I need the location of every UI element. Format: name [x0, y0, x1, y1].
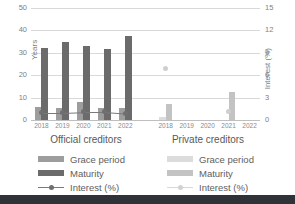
- category-tick-label: 2021: [221, 122, 235, 129]
- legend-item: Grace period: [167, 152, 254, 166]
- chart-figure: 0102030405003691215YearsInterest (%) 201…: [0, 0, 295, 204]
- legend-label: Interest (%): [199, 182, 248, 193]
- legend-item: Interest (%): [167, 180, 254, 194]
- y-axis-tick-label: 20: [19, 71, 27, 79]
- category-tick-label: 2022: [242, 122, 256, 129]
- category-tick-label: 2018: [158, 122, 172, 129]
- category-tick-label: 2018: [34, 122, 48, 129]
- y-axis-tick-label: 40: [19, 26, 27, 34]
- legend-item: Interest (%): [38, 180, 125, 194]
- y2-axis-tick-label: 3: [265, 94, 269, 102]
- plot-area: 0102030405003691215YearsInterest (%): [31, 8, 260, 120]
- y2-axis-tick-label: 0: [265, 116, 269, 124]
- swatch-grace-official-icon: [38, 156, 64, 162]
- interest-marker: [39, 110, 44, 115]
- panel-title-official: Official creditors: [50, 134, 122, 145]
- y-axis-tick-label: 0: [23, 116, 27, 124]
- swatch-maturity-official-icon: [38, 170, 64, 176]
- legend-item: Maturity: [38, 166, 125, 180]
- interest-marker: [60, 110, 65, 115]
- bar-maturity: [41, 48, 47, 120]
- bar-maturity: [125, 36, 131, 120]
- category-tick-label: 2022: [118, 122, 132, 129]
- legend-item: Grace period: [38, 152, 125, 166]
- legend-private: Grace period Maturity Interest (%): [167, 152, 254, 194]
- legend-label: Grace period: [199, 154, 254, 165]
- legend-label: Grace period: [70, 154, 125, 165]
- category-tick-label: 2019: [179, 122, 193, 129]
- category-tick-label: 2021: [97, 122, 111, 129]
- swatch-grace-private-icon: [167, 156, 193, 162]
- category-tick-label: 2020: [76, 122, 90, 129]
- category-tick-label: 2019: [55, 122, 69, 129]
- y-axis-tick-label: 50: [19, 4, 27, 12]
- bar-maturity: [166, 104, 172, 120]
- bar-maturity: [62, 42, 68, 120]
- category-axis: 2018201920202021202220182019202020212022: [31, 122, 260, 132]
- line-marker-private-icon: [167, 184, 193, 190]
- bar-maturity: [229, 92, 235, 120]
- y2-axis-title: Interest (%): [263, 48, 272, 89]
- swatch-maturity-private-icon: [167, 170, 193, 176]
- line-marker-official-icon: [38, 184, 64, 190]
- legend-label: Interest (%): [70, 182, 119, 193]
- gridline: [31, 30, 260, 31]
- gridline: [31, 120, 260, 121]
- bottom-bar: [0, 195, 295, 204]
- y2-axis-tick-label: 15: [265, 4, 273, 12]
- plot-inner: 0102030405003691215YearsInterest (%): [31, 8, 260, 120]
- interest-marker: [163, 66, 168, 71]
- legend-item: Maturity: [167, 166, 254, 180]
- y-axis-tick-label: 10: [19, 94, 27, 102]
- legend-label: Maturity: [70, 168, 104, 179]
- interest-marker: [123, 111, 128, 116]
- panel-title-private: Private creditors: [172, 134, 244, 145]
- y2-axis-tick-label: 12: [265, 26, 273, 34]
- gridline: [31, 8, 260, 9]
- y-axis-tick-label: 30: [19, 49, 27, 57]
- y-axis-title: Years: [30, 40, 39, 60]
- legend-label: Maturity: [199, 168, 233, 179]
- category-tick-label: 2020: [200, 122, 214, 129]
- legend-official: Grace period Maturity Interest (%): [38, 152, 125, 194]
